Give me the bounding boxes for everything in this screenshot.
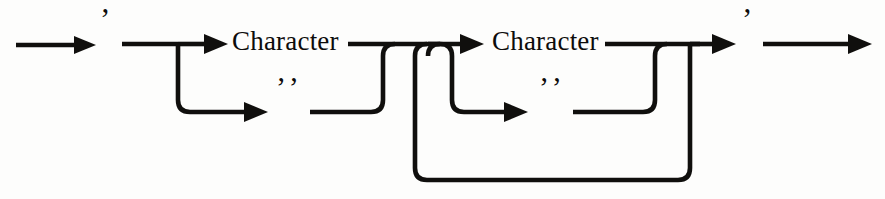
entry-arrow-icon <box>16 36 96 54</box>
open-quote-terminal: ’ <box>100 4 110 35</box>
escaped-quote-terminal-1: ’’ <box>276 72 304 102</box>
escaped-quote-terminal-2: ’’ <box>539 72 567 102</box>
close-quote-terminal: ’ <box>742 4 752 35</box>
track-group-to-close-quote <box>690 34 736 54</box>
character-nonterminal-1: Character <box>232 28 339 55</box>
branch1-upper-track <box>178 34 228 54</box>
railroad-diagram: ’ Character ’’ Character ’’ ’ <box>0 0 885 199</box>
exit-arrow-icon <box>763 34 872 54</box>
character-nonterminal-2: Character <box>492 28 599 55</box>
